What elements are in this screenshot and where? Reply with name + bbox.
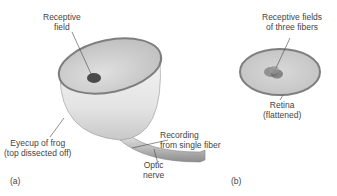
recording-line2: from single fiber (160, 140, 220, 150)
retina-flattened (240, 49, 320, 95)
retina-label: Retina (flattened) (263, 100, 301, 120)
eyecup-line2: (top dissected off) (4, 148, 71, 158)
receptive-fields-line2: of three fibers (262, 22, 322, 32)
panel-b-label: (b) (231, 176, 241, 186)
receptive-field-line2: field (43, 22, 81, 32)
eyecup (54, 30, 167, 140)
retina-line1: Retina (263, 100, 301, 110)
optic-nerve-line1: Optic (143, 160, 164, 170)
optic-nerve-label: Optic nerve (143, 160, 164, 180)
optic-nerve-line2: nerve (143, 170, 164, 180)
eyecup-line1: Eyecup of frog (4, 138, 71, 148)
recording-label: Recording from single fiber (160, 130, 220, 150)
receptive-fields-line1: Receptive fields (262, 12, 322, 22)
receptive-field-spot (87, 73, 101, 83)
receptive-field-label: Receptive field (43, 12, 81, 32)
retina-line2: (flattened) (263, 110, 301, 120)
panel-a-label: (a) (10, 176, 20, 186)
recording-line1: Recording (160, 130, 220, 140)
receptive-fields-label: Receptive fields of three fibers (262, 12, 322, 32)
receptive-field-line1: Receptive (43, 12, 81, 22)
eyecup-label: Eyecup of frog (top dissected off) (4, 138, 71, 158)
